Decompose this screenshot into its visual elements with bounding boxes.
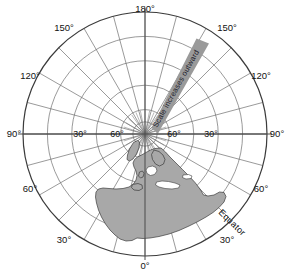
label-right-120: 120° [251, 70, 271, 81]
label-inner-right-30: 30° [204, 129, 217, 139]
label-left-90: 90° [7, 128, 22, 139]
land-black-sea [183, 175, 193, 180]
label-inner-right-60: 60° [167, 129, 180, 139]
label-bottomleft-30: 30° [57, 234, 72, 245]
label-lowerleft-60: 60° [23, 183, 38, 194]
label-inner-left-60: 60° [110, 129, 123, 139]
label-left-120: 120° [20, 70, 40, 81]
map-svg: Scale increases outward Equator 180° 150… [0, 0, 290, 274]
polar-projection-figure: Scale increases outward Equator 180° 150… [0, 0, 290, 274]
label-bottom-0: 0° [140, 260, 149, 271]
label-topright-150: 150° [217, 22, 237, 33]
label-right-90: 90° [270, 128, 285, 139]
label-topleft-150: 150° [54, 22, 74, 33]
land-british-isles [139, 171, 145, 178]
label-top-180: 180° [135, 3, 155, 14]
label-lowerright-60: 60° [254, 183, 269, 194]
label-bottomright-30: 30° [220, 234, 235, 245]
label-inner-left-30: 30° [73, 129, 86, 139]
land-iberia [132, 184, 143, 191]
